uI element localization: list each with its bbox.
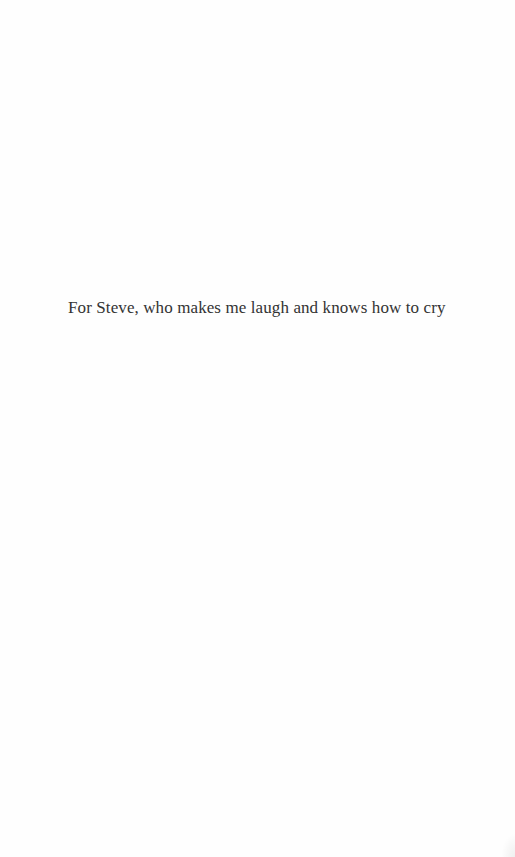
dedication-text: For Steve, who makes me laugh and knows … [68,297,446,319]
page-corner-shadow [501,833,515,857]
book-page: For Steve, who makes me laugh and knows … [0,0,515,857]
